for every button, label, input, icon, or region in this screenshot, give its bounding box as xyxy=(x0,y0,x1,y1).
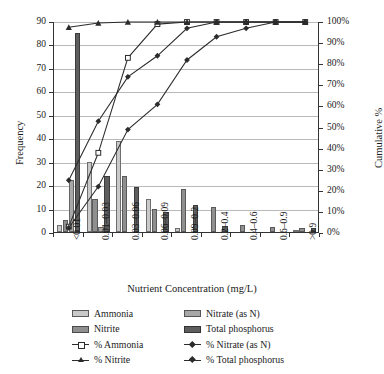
legend-marker-icon xyxy=(78,342,85,349)
legend-item-label: % Nitrate (as N) xyxy=(206,340,270,350)
legend-item: Nitrite xyxy=(72,324,184,334)
x-tick-mark xyxy=(319,233,320,237)
y-tick-label: 20 xyxy=(20,181,46,191)
y-tick-label: 70 xyxy=(20,64,46,74)
y2-tick-mark xyxy=(319,22,323,23)
legend-item-label: Ammonia xyxy=(94,309,133,319)
x-tick-mark xyxy=(260,233,261,237)
x-tick-label: 0.6–0.9 xyxy=(279,212,289,241)
cumulative-lines xyxy=(54,22,320,233)
y-tick-mark xyxy=(49,92,53,93)
legend-swatch-icon xyxy=(72,326,89,333)
y-tick-mark xyxy=(49,45,53,46)
y2-tick-label: 10% xyxy=(327,207,361,217)
y2-tick-mark xyxy=(319,170,323,171)
line-3 xyxy=(69,22,305,228)
y-tick-label: 30 xyxy=(20,158,46,168)
nutrient-concentration-histogram: Frequency Cumulative % 01020304050607080… xyxy=(0,0,384,374)
legend-item: % Total phosphorus xyxy=(184,355,332,365)
x-tick-mark xyxy=(53,233,54,237)
x-tick-mark xyxy=(201,233,202,237)
legend-item: Ammonia xyxy=(72,309,184,319)
line-3-marker-6 xyxy=(243,25,249,31)
legend-item-label: % Nitrite xyxy=(94,355,130,365)
y-tick-label: 40 xyxy=(20,134,46,144)
y2-tick-mark xyxy=(319,128,323,129)
y2-tick-mark xyxy=(319,64,323,65)
x-tick-label: <0.01 xyxy=(72,218,82,240)
legend-line-icon xyxy=(72,341,89,349)
y2-tick-label: 0% xyxy=(327,228,361,238)
legend-item-label: % Total phosphorus xyxy=(206,355,284,365)
line-2-marker-1 xyxy=(95,118,101,124)
x-tick-label: >0.9 xyxy=(308,223,318,240)
legend-item-label: Total phosphorus xyxy=(206,324,274,334)
y2-tick-mark xyxy=(319,149,323,150)
legend-item: % Nitrite xyxy=(72,355,184,365)
y2-tick-label: 20% xyxy=(327,186,361,196)
y2-tick-label: 60% xyxy=(327,101,361,111)
legend-item: Total phosphorus xyxy=(184,324,332,334)
x-tick-mark xyxy=(112,233,113,237)
y-tick-mark xyxy=(49,210,53,211)
legend-marker-icon xyxy=(189,341,195,347)
y-tick-label: 0 xyxy=(20,228,46,238)
legend-marker-icon xyxy=(78,357,84,362)
y2-tick-mark xyxy=(319,85,323,86)
y2-tick-mark xyxy=(319,191,323,192)
legend-swatch-icon xyxy=(184,310,201,317)
x-tick-label: 0.4–0.6 xyxy=(249,212,259,241)
y2-tick-label: 30% xyxy=(327,165,361,175)
legend-swatch-icon xyxy=(72,310,89,317)
legend-item-label: Nitrite xyxy=(94,324,120,334)
legend-line-icon xyxy=(184,356,201,364)
x-tick-label: 0.03–0.06 xyxy=(131,202,141,240)
y2-tick-label: 90% xyxy=(327,38,361,48)
y-tick-mark xyxy=(49,186,53,187)
line-0-marker-2 xyxy=(125,55,130,60)
y-tick-mark xyxy=(49,139,53,140)
x-tick-label: 0.2–0.4 xyxy=(220,212,230,241)
secondary-y-axis-title: Cumulative % xyxy=(373,108,384,168)
line-0 xyxy=(69,22,305,227)
y-tick-label: 90 xyxy=(20,17,46,27)
y2-tick-label: 40% xyxy=(327,144,361,154)
legend-item: % Nitrate (as N) xyxy=(184,340,332,350)
y-tick-label: 10 xyxy=(20,205,46,215)
legend-item: % Ammonia xyxy=(72,340,184,350)
legend-swatch-icon xyxy=(184,326,201,333)
x-tick-mark xyxy=(171,233,172,237)
y2-tick-label: 80% xyxy=(327,59,361,69)
y2-tick-label: 70% xyxy=(327,80,361,90)
y2-tick-label: 100% xyxy=(327,17,361,27)
y-tick-mark xyxy=(49,163,53,164)
legend-marker-icon xyxy=(189,356,195,362)
y-tick-mark xyxy=(49,22,53,23)
legend-line-icon xyxy=(72,356,89,364)
y-tick-mark xyxy=(49,69,53,70)
x-tick-label: 0.01–0.03 xyxy=(101,202,111,240)
x-tick-label: 0.06–0.09 xyxy=(160,202,170,240)
x-tick-label: 0.09–0.2 xyxy=(190,207,200,240)
x-tick-mark xyxy=(142,233,143,237)
legend-item-label: Nitrate (as N) xyxy=(206,309,260,319)
legend-item-label: % Ammonia xyxy=(94,340,143,350)
legend-line-icon xyxy=(184,341,201,349)
plot-area xyxy=(53,22,319,233)
y-tick-label: 80 xyxy=(20,40,46,50)
line-2-marker-0 xyxy=(66,177,72,183)
legend-item: Nitrate (as N) xyxy=(184,309,332,319)
y-tick-mark xyxy=(49,116,53,117)
y2-tick-mark xyxy=(319,212,323,213)
x-tick-mark xyxy=(289,233,290,237)
line-0-marker-1 xyxy=(96,150,101,155)
chart-legend: AmmoniaNitrate (as N)NitriteTotal phosph… xyxy=(72,306,332,368)
y2-tick-mark xyxy=(319,43,323,44)
y2-tick-label: 50% xyxy=(327,123,361,133)
y2-tick-mark xyxy=(319,106,323,107)
x-tick-mark xyxy=(83,233,84,237)
x-tick-mark xyxy=(230,233,231,237)
x-axis-title: Nutrient Concentration (mg/L) xyxy=(0,283,384,294)
y-tick-label: 60 xyxy=(20,87,46,97)
line-2 xyxy=(69,22,305,180)
